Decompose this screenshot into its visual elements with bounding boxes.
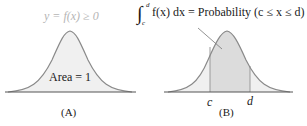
integral-upper-limit: d (146, 1, 150, 9)
caption-b: (B) (219, 106, 234, 118)
curve-label: y = f(x) ≥ 0 (44, 9, 99, 24)
area-label: Area = 1 (49, 70, 91, 85)
c-label: c (207, 95, 212, 110)
panel-b-shaded-region (168, 31, 290, 92)
caption-a: (A) (61, 106, 76, 118)
d-label: d (247, 94, 253, 109)
integral-expression: f(x) dx = Probability (c ≤ x ≤ d) (152, 5, 305, 20)
integral-lower-limit: c (142, 19, 145, 27)
panel-b-graph (164, 28, 293, 92)
